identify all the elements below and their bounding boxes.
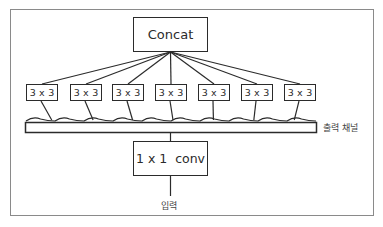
branch-3x3-node: 3 x 3 <box>26 84 58 101</box>
branch-3x3-node: 3 x 3 <box>241 84 273 101</box>
output-channel-bar <box>26 123 317 133</box>
branch-label: 3 x 3 <box>245 87 270 98</box>
branch-3x3-node: 3 x 3 <box>112 84 144 101</box>
branch-label: 3 x 3 <box>74 87 99 98</box>
concat-node: Concat <box>133 17 208 52</box>
branch-label: 3 x 3 <box>159 87 184 98</box>
branch-label: 3 x 3 <box>288 87 313 98</box>
branch-3x3-node: 3 x 3 <box>284 84 316 101</box>
branch-3x3-node: 3 x 3 <box>198 84 230 101</box>
concat-label: Concat <box>148 27 193 42</box>
conv-1x1-node: 1 x 1 conv <box>133 141 208 176</box>
branch-3x3-node: 3 x 3 <box>70 84 102 101</box>
branch-3x3-node: 3 x 3 <box>155 84 187 101</box>
branch-label: 3 x 3 <box>202 87 227 98</box>
branch-label: 3 x 3 <box>30 87 55 98</box>
output-channel-label: 출력 채널 <box>323 121 358 134</box>
output-channel-wave <box>26 118 316 121</box>
conv-label: 1 x 1 conv <box>136 151 205 166</box>
diagram-canvas: Concat 3 x 33 x 33 x 33 x 33 x 33 x 33 x… <box>0 0 383 227</box>
branch-label: 3 x 3 <box>116 87 141 98</box>
input-label: 입력 <box>161 199 177 212</box>
